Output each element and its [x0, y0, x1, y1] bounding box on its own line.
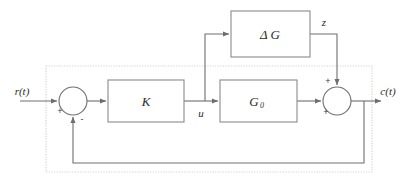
block-label-plant-g0-subscript: 0 — [260, 101, 264, 110]
block-label-gain-k: K — [141, 94, 152, 109]
block-diagram-svg: Δ G K G 0 r(t) u z c(t) + - + + — [0, 0, 417, 187]
sign-output-sum-plus-left: + — [323, 107, 328, 117]
signal-label-output: c(t) — [380, 85, 396, 98]
sign-error-sum-minus: - — [81, 114, 84, 124]
sign-error-sum-plus: + — [57, 106, 62, 116]
block-label-plant-g0: G — [249, 94, 259, 109]
block-label-delta-g: Δ G — [259, 27, 281, 42]
sign-output-sum-plus-top: + — [325, 76, 330, 86]
signal-label-reference: r(t) — [15, 85, 30, 98]
signal-label-uncertainty-output: z — [321, 16, 327, 28]
plant-boundary — [46, 66, 372, 172]
summing-junction-error — [59, 87, 87, 115]
block-diagram-canvas: Δ G K G 0 r(t) u z c(t) + - + + — [0, 0, 417, 187]
signal-label-control: u — [198, 107, 204, 119]
wire-delta-g-to-output-sum — [310, 34, 337, 85]
